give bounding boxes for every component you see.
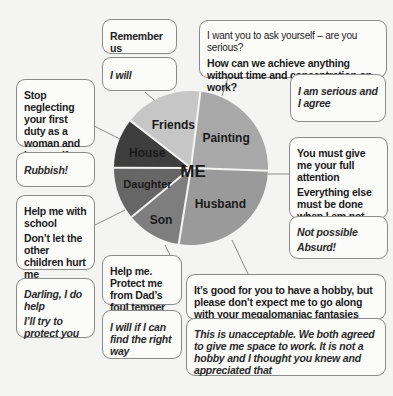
bubble-son-reply: I will if I can find the right way	[102, 310, 182, 359]
bubble-friends-demand: Remember us	[102, 19, 177, 54]
bubble-text: Remember us	[110, 30, 169, 54]
bubble-text: I will	[110, 69, 169, 81]
bubble-text: Absurd!	[297, 241, 380, 253]
bubble-house-demand: Stop neglecting your first duty as a wom…	[16, 79, 95, 147]
bubble-text: Darling, I do help	[24, 288, 87, 312]
pie-label-husband: Husband	[195, 197, 246, 211]
bubble-text: I am serious and I agree	[298, 85, 378, 109]
pie-label-painting: Painting	[202, 131, 249, 145]
bubble-text: This is unacceptable. We both agreed to …	[194, 328, 378, 376]
bubble-husband-painting-reply: This is unacceptable. We both agreed to …	[186, 318, 386, 376]
bubble-text: I’ll try to protect you	[24, 315, 87, 339]
bubble-daughter-demand: Help me with schoolDon’t let the other c…	[16, 195, 95, 270]
bubble-son-demand: Help me. Protect me from Dad’s foul temp…	[102, 255, 182, 305]
bubble-text: It’s good for you to have a hobby, but p…	[194, 284, 378, 320]
pie-label-friends: Friends	[152, 118, 196, 132]
bubble-painting-reply: I am serious and I agree	[290, 74, 386, 122]
bubble-text: Help me. Protect me from Dad’s foul temp…	[110, 265, 174, 313]
bubble-text: Not possible	[297, 226, 380, 238]
center-label: ME	[180, 162, 206, 181]
bubble-text: You must give me your full attention	[297, 147, 380, 183]
pie-label-daughter: Daughter	[123, 178, 172, 190]
bubble-painting-demand: I want you to ask yourself – are you ser…	[199, 20, 387, 78]
bubble-daughter-reply: Darling, I do helpI’ll try to protect yo…	[16, 278, 95, 338]
bubble-house-reply: Rubbish!	[16, 152, 95, 187]
bubble-text: Rubbish!	[24, 164, 87, 176]
pie-label-son: Son	[150, 213, 173, 227]
pie-label-house: House	[129, 146, 166, 160]
bubble-text: I will if I can find the right way	[110, 321, 174, 357]
bubble-husband-reply: Not possibleAbsurd!	[289, 216, 388, 259]
bubble-husband-demand: You must give me your full attentionEver…	[289, 137, 388, 219]
bubble-text: Stop neglecting your first duty as a wom…	[24, 89, 87, 161]
bubble-text: Don’t let the other children hurt me	[24, 232, 87, 280]
bubble-text: I want you to ask yourself – are you ser…	[207, 30, 379, 54]
bubble-husband-painting-demand: It’s good for you to have a hobby, but p…	[186, 274, 386, 320]
bubble-friends-reply: I will	[102, 57, 177, 91]
bubble-text: Help me with school	[24, 205, 87, 229]
